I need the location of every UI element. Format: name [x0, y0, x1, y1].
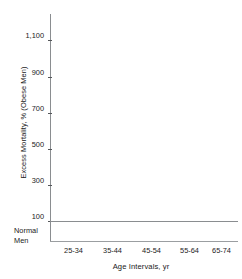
y-tick-mark-1100 [48, 40, 52, 41]
x-tick-label-35-44: 35-44 [95, 246, 130, 255]
y-tick-label-900: 900 [10, 69, 44, 77]
y-tick-label-500: 500 [10, 141, 44, 149]
y-tick-label-100: 100 [10, 213, 44, 221]
normal-men-reference-label: Normal Men [14, 226, 48, 246]
x-tick-label-25-34: 25-34 [56, 246, 91, 255]
y-tick-mark-900 [48, 77, 52, 78]
x-axis-title: Age Intervals, yr [46, 262, 236, 271]
x-tick-label-45-54: 45-54 [134, 246, 169, 255]
normal-men-line2: Men [14, 236, 48, 246]
reference-line-100 [50, 221, 238, 222]
y-tick-mark-700 [48, 113, 52, 114]
y-tick-mark-300 [48, 185, 52, 186]
y-tick-mark-500 [48, 149, 52, 150]
x-tick-label-65-74: 65-74 [204, 246, 239, 255]
y-tick-label-1100: 1,100 [10, 32, 44, 40]
x-axis-baseline [50, 241, 238, 242]
bar-chart: Excess Mortality, % (Obese Men) 1,100 90… [0, 0, 242, 279]
y-tick-label-300: 300 [10, 177, 44, 185]
y-axis-line [50, 14, 51, 242]
normal-men-line1: Normal [14, 226, 48, 236]
x-tick-label-55-64: 55-64 [172, 246, 207, 255]
y-tick-label-700: 700 [10, 105, 44, 113]
